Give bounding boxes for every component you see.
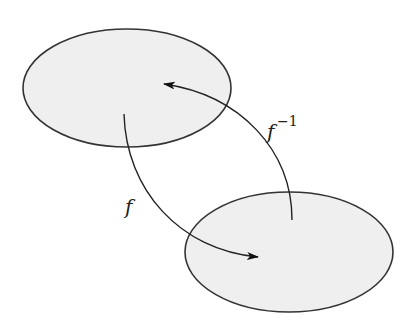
f-label: f — [123, 195, 136, 219]
domain-set-ellipse — [23, 29, 231, 147]
f-inverse-label-superscript: −1 — [277, 113, 298, 129]
codomain-set-ellipse — [185, 192, 393, 312]
function-diagram: f f −1 — [0, 0, 420, 319]
f-inverse-label: f −1 — [265, 113, 298, 144]
diagram-canvas: f f −1 — [0, 0, 420, 319]
